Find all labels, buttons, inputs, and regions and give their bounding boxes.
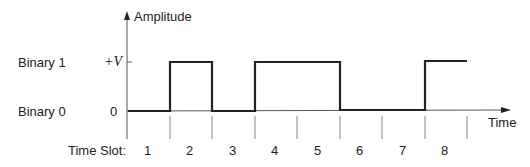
x-axis-label: Time (488, 115, 516, 130)
x-axis-arrow-icon (501, 107, 511, 113)
slot-label: 3 (229, 143, 236, 158)
slot-ticks (170, 116, 467, 139)
slot-label: 5 (314, 143, 321, 158)
slot-label: 7 (399, 143, 406, 158)
binary-0-label: Binary 0 (18, 104, 66, 119)
signal-diagram (0, 0, 530, 167)
time-slot-label: Time Slot: (68, 143, 126, 158)
slot-label: 8 (441, 143, 448, 158)
x-axis (127, 110, 505, 111)
y-axis-label: Amplitude (134, 9, 192, 24)
nrz-waveform (128, 61, 467, 111)
slot-label: 2 (186, 143, 193, 158)
slot-label: 1 (144, 143, 151, 158)
binary-1-label: Binary 1 (18, 55, 66, 70)
y-axis-arrow-icon (124, 11, 130, 20)
slot-label: 4 (271, 143, 278, 158)
plus-v-label: +V (104, 54, 122, 70)
slot-label: 6 (356, 143, 363, 158)
zero-label: 0 (110, 104, 117, 119)
